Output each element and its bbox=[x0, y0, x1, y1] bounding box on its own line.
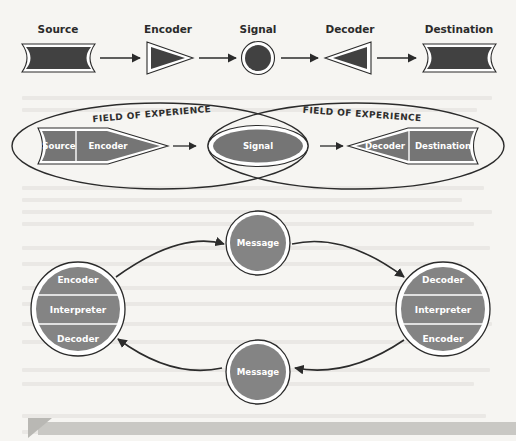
model-fields: FIELD OF EXPERIENCE FIELD OF EXPERIENCE … bbox=[12, 103, 504, 189]
model-linear: Source Encoder Signal bbox=[22, 23, 496, 75]
label-right-segment-encoder: Encoder bbox=[422, 334, 464, 344]
source-shape-fill bbox=[26, 47, 91, 69]
node-decoder[interactable]: Decoder bbox=[325, 23, 375, 74]
communication-models-figure: Source Encoder Signal bbox=[0, 0, 516, 441]
label-fields-source: Source bbox=[42, 141, 76, 151]
label-message-bottom: Message bbox=[237, 367, 280, 377]
label-left-field-of-experience: FIELD OF EXPERIENCE bbox=[92, 104, 211, 124]
label-left-segment-decoder: Decoder bbox=[57, 334, 100, 344]
label-fields-destination: Destination bbox=[415, 141, 471, 151]
label-destination: Destination bbox=[425, 23, 494, 35]
node-communicator-right[interactable]: Decoder Interpreter Encoder bbox=[396, 262, 490, 356]
node-source-encoder-group[interactable]: Source Encoder bbox=[38, 128, 168, 164]
node-destination[interactable]: Destination bbox=[423, 23, 496, 72]
label-right-segment-interpreter: Interpreter bbox=[415, 305, 472, 315]
label-message-top: Message bbox=[237, 238, 280, 248]
arrow-top-message-to-right bbox=[292, 241, 404, 277]
arrow-left-to-top-message bbox=[116, 241, 224, 277]
label-fields-signal: Signal bbox=[243, 141, 273, 151]
label-signal: Signal bbox=[240, 23, 277, 35]
label-source: Source bbox=[38, 23, 79, 35]
node-communicator-left[interactable]: Encoder Interpreter Decoder bbox=[31, 262, 125, 356]
arrow-bottom-message-to-left bbox=[118, 339, 222, 370]
label-right-segment-decoder: Decoder bbox=[422, 275, 465, 285]
node-fields-signal[interactable]: Signal bbox=[208, 126, 308, 167]
label-left-segment-encoder: Encoder bbox=[57, 275, 99, 285]
label-fields-decoder: Decoder bbox=[365, 141, 406, 151]
figure-canvas: Source Encoder Signal bbox=[0, 0, 516, 441]
label-decoder: Decoder bbox=[325, 23, 375, 35]
signal-disc bbox=[245, 45, 271, 71]
label-fields-encoder: Encoder bbox=[88, 141, 128, 151]
node-source[interactable]: Source bbox=[22, 23, 95, 72]
footer-bar-rect bbox=[38, 422, 516, 435]
label-right-field-of-experience: FIELD OF EXPERIENCE bbox=[302, 105, 421, 123]
node-message-top[interactable]: Message bbox=[226, 211, 290, 275]
node-message-bottom[interactable]: Message bbox=[226, 340, 290, 404]
node-decoder-destination-group[interactable]: Decoder Destination bbox=[348, 128, 478, 164]
arrow-right-to-bottom-message bbox=[295, 340, 404, 370]
label-left-segment-interpreter: Interpreter bbox=[50, 305, 107, 315]
node-encoder[interactable]: Encoder bbox=[144, 23, 193, 74]
destination-shape-fill bbox=[427, 47, 492, 69]
page-footer-bar bbox=[28, 418, 516, 438]
label-encoder: Encoder bbox=[144, 23, 193, 35]
node-signal[interactable]: Signal bbox=[240, 23, 277, 75]
model-circular: Encoder Interpreter Decoder Decoder Inte… bbox=[31, 211, 490, 404]
